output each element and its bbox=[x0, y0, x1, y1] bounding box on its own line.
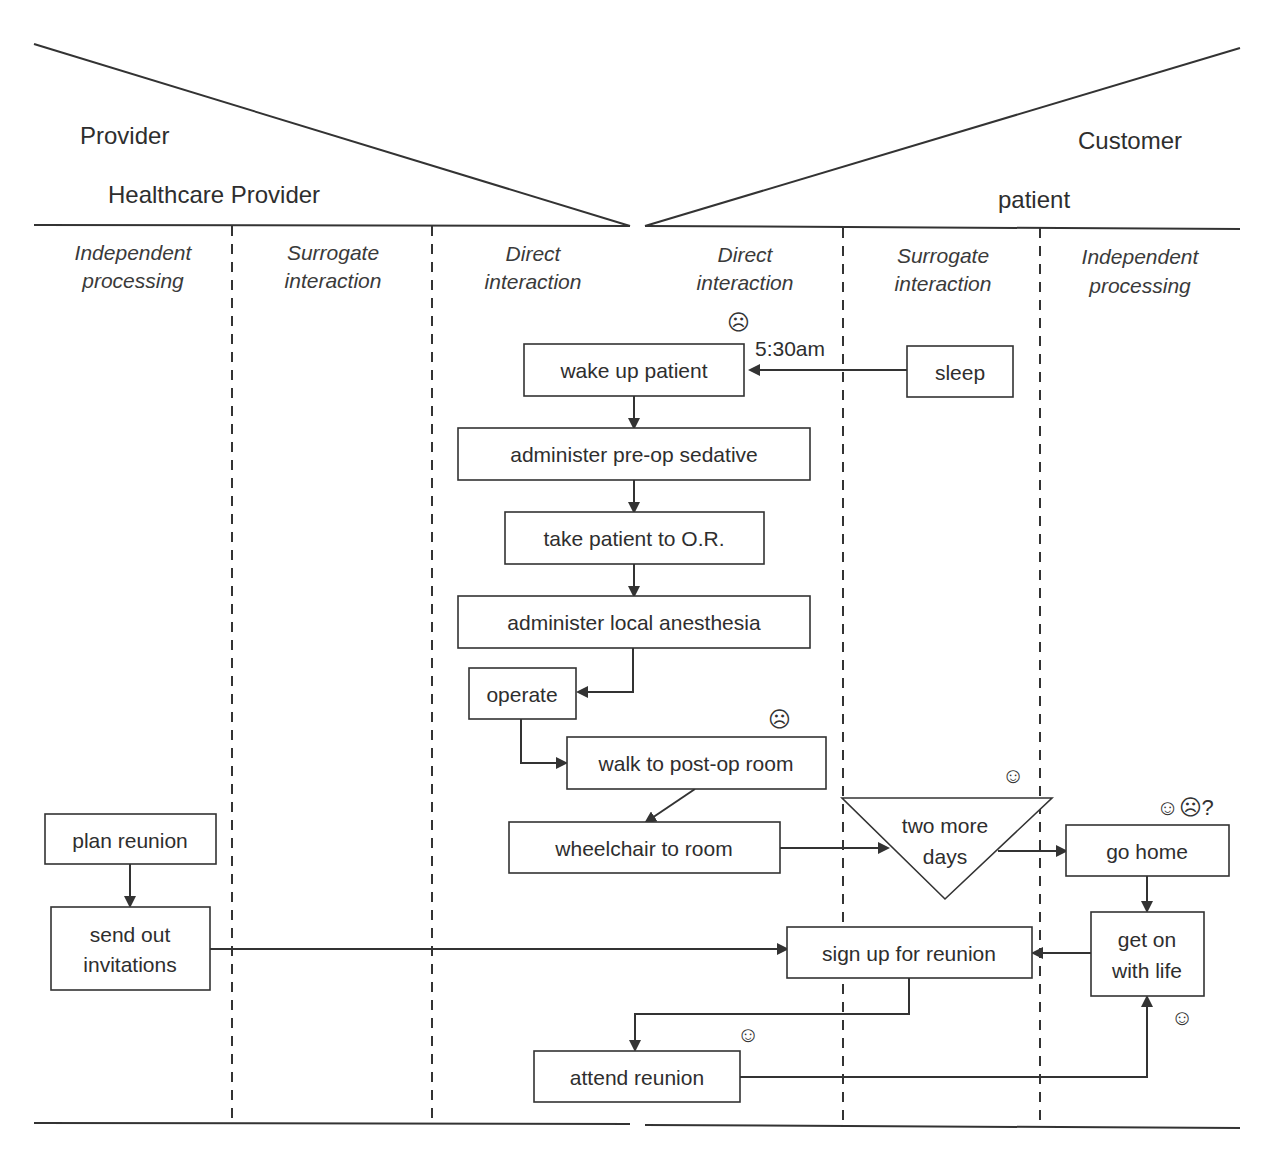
svg-text:sign up for reunion: sign up for reunion bbox=[822, 942, 996, 965]
svg-text:walk to post-op room: walk to post-op room bbox=[598, 752, 794, 775]
provider-title: Provider bbox=[80, 122, 169, 149]
svg-text:processing: processing bbox=[1088, 274, 1191, 297]
frown-icon: ☹ bbox=[727, 310, 750, 335]
node-go-home: go home bbox=[1066, 825, 1229, 876]
frown-icon: ☹ bbox=[768, 707, 791, 732]
smile-icon: ☺ bbox=[1002, 763, 1024, 788]
svg-text:Surrogate: Surrogate bbox=[897, 244, 989, 267]
bottom-rule bbox=[34, 1123, 1240, 1128]
svg-text:with life: with life bbox=[1111, 959, 1182, 982]
node-get-on-with-life: get on with life bbox=[1091, 912, 1204, 996]
svg-text:two more: two more bbox=[902, 814, 988, 837]
customer-subtitle: patient bbox=[998, 186, 1070, 213]
column-header-customer-direct: Direct interaction bbox=[697, 243, 794, 294]
column-header-provider-surrogate: Surrogate interaction bbox=[285, 241, 382, 292]
svg-text:plan reunion: plan reunion bbox=[72, 829, 188, 852]
node-sleep: sleep bbox=[907, 346, 1013, 397]
svg-text:Direct: Direct bbox=[506, 242, 562, 265]
svg-text:interaction: interaction bbox=[485, 270, 582, 293]
column-header-provider-direct: Direct interaction bbox=[485, 242, 582, 293]
svg-text:administer pre-op sedative: administer pre-op sedative bbox=[510, 443, 757, 466]
svg-text:take patient to O.R.: take patient to O.R. bbox=[544, 527, 725, 550]
svg-text:administer local anesthesia: administer local anesthesia bbox=[507, 611, 761, 634]
svg-text:Direct: Direct bbox=[718, 243, 774, 266]
svg-text:days: days bbox=[923, 845, 967, 868]
node-take-patient-to-or: take patient to O.R. bbox=[505, 512, 764, 564]
svg-text:wheelchair to room: wheelchair to room bbox=[554, 837, 732, 860]
svg-text:wake up patient: wake up patient bbox=[559, 359, 707, 382]
svg-text:interaction: interaction bbox=[697, 271, 794, 294]
node-sign-up-for-reunion: sign up for reunion bbox=[787, 927, 1032, 978]
node-wheelchair-to-room: wheelchair to room bbox=[509, 822, 780, 873]
customer-title: Customer bbox=[1078, 127, 1182, 154]
service-blueprint-diagram: Provider Healthcare Provider Customer pa… bbox=[0, 0, 1263, 1152]
svg-text:invitations: invitations bbox=[83, 953, 176, 976]
svg-text:get on: get on bbox=[1118, 928, 1176, 951]
node-administer-anesthesia: administer local anesthesia bbox=[458, 596, 810, 648]
mood-mixed-icon: ☺☹? bbox=[1156, 795, 1214, 820]
svg-text:interaction: interaction bbox=[895, 272, 992, 295]
provider-subtitle: Healthcare Provider bbox=[108, 181, 320, 208]
svg-text:Surrogate: Surrogate bbox=[287, 241, 379, 264]
svg-text:attend reunion: attend reunion bbox=[570, 1066, 704, 1089]
smile-icon: ☺ bbox=[737, 1022, 759, 1047]
column-header-provider-independent: Independent processing bbox=[75, 241, 193, 292]
svg-text:send out: send out bbox=[90, 923, 171, 946]
node-administer-sedative: administer pre-op sedative bbox=[458, 428, 810, 480]
svg-text:go home: go home bbox=[1106, 840, 1188, 863]
column-header-customer-surrogate: Surrogate interaction bbox=[895, 244, 992, 295]
node-wake-up-patient: wake up patient bbox=[524, 344, 744, 396]
svg-text:Independent: Independent bbox=[1082, 245, 1200, 268]
column-header-customer-independent: Independent processing bbox=[1082, 245, 1200, 297]
svg-text:Independent: Independent bbox=[75, 241, 193, 264]
svg-text:sleep: sleep bbox=[935, 361, 985, 384]
smile-icon: ☺ bbox=[1171, 1005, 1193, 1030]
node-walk-to-post-op: walk to post-op room bbox=[567, 737, 826, 789]
time-label: 5:30am bbox=[755, 337, 825, 360]
node-plan-reunion: plan reunion bbox=[45, 814, 216, 864]
node-attend-reunion: attend reunion bbox=[534, 1051, 740, 1102]
svg-text:interaction: interaction bbox=[285, 269, 382, 292]
node-send-out-invitations: send out invitations bbox=[51, 907, 210, 990]
node-operate: operate bbox=[469, 668, 576, 719]
svg-text:operate: operate bbox=[486, 683, 557, 706]
svg-text:processing: processing bbox=[81, 269, 184, 292]
